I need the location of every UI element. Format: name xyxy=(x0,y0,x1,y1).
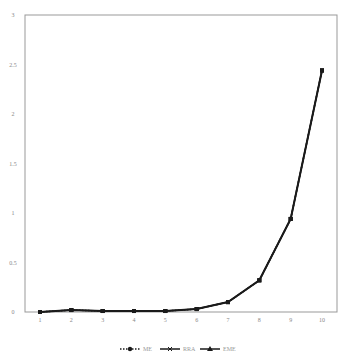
y-tick-label: 2 xyxy=(12,111,15,117)
data-point-marker xyxy=(38,310,42,314)
x-tick-label: 6 xyxy=(195,317,198,323)
x-tick-label: 10 xyxy=(319,317,325,323)
x-tick-label: 5 xyxy=(164,317,167,323)
series-line-me xyxy=(40,70,322,312)
data-point-marker xyxy=(257,278,261,282)
y-axis: 00.511.522.53 xyxy=(9,12,17,315)
data-point-marker xyxy=(163,309,167,313)
x-tick-label: 8 xyxy=(258,317,261,323)
series-line-eme xyxy=(40,70,322,312)
data-point-marker xyxy=(226,300,230,304)
series-lines xyxy=(38,68,324,314)
legend-label: RRA xyxy=(183,346,196,352)
x-tick-label: 1 xyxy=(39,317,42,323)
data-point-marker xyxy=(320,68,324,72)
series-line-rra xyxy=(40,70,322,312)
data-point-marker xyxy=(289,217,293,221)
data-point-marker xyxy=(101,309,105,313)
y-tick-label: 1.5 xyxy=(9,161,17,167)
x-tick-label: 7 xyxy=(227,317,230,323)
circle-marker-icon xyxy=(128,347,132,351)
data-point-marker xyxy=(195,307,199,311)
y-tick-label: 0.5 xyxy=(9,260,17,266)
data-point-marker xyxy=(132,309,136,313)
y-tick-label: 2.5 xyxy=(9,62,17,68)
y-tick-label: 1 xyxy=(12,210,15,216)
y-tick-label: 3 xyxy=(12,12,15,18)
x-tick-label: 2 xyxy=(70,317,73,323)
x-tick-label: 4 xyxy=(133,317,136,323)
x-tick-label: 3 xyxy=(101,317,104,323)
x-axis: 12345678910 xyxy=(39,317,326,323)
legend-label: EME xyxy=(223,346,236,352)
data-point-marker xyxy=(69,308,73,312)
x-tick-label: 9 xyxy=(289,317,292,323)
line-chart: 00.511.522.53 12345678910 MERRAEME xyxy=(0,0,348,360)
legend-label: ME xyxy=(143,346,152,352)
legend: MERRAEME xyxy=(120,346,236,352)
y-tick-label: 0 xyxy=(12,309,15,315)
plot-area xyxy=(25,15,337,312)
